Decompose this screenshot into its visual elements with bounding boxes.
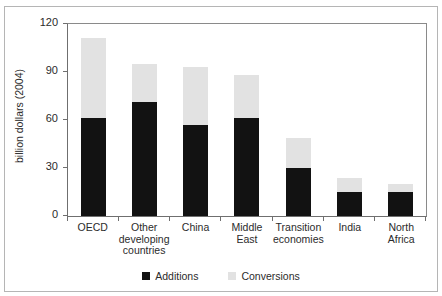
bar-segment-additions[interactable] xyxy=(234,118,259,216)
bar-segment-conversions[interactable] xyxy=(388,184,413,192)
legend-label: Conversions xyxy=(241,270,299,282)
x-axis-tick-mark xyxy=(425,216,426,221)
bar-segment-conversions[interactable] xyxy=(337,178,362,192)
y-axis-tick-label: 90 xyxy=(28,65,58,76)
bar-cell xyxy=(375,24,426,216)
x-axis-tick-mark xyxy=(220,216,221,221)
x-axis-label-transition-economies: Transitioneconomies xyxy=(273,222,324,257)
x-axis-label-line: East xyxy=(221,234,272,246)
x-axis-label-line: Transition xyxy=(273,222,324,234)
y-axis-tick-label: 120 xyxy=(28,17,58,28)
x-axis-label-line: India xyxy=(324,222,375,234)
x-axis-label-line: countries xyxy=(118,245,169,257)
stacked-bar[interactable] xyxy=(234,75,259,216)
bar-cell xyxy=(119,24,170,216)
bar-cell xyxy=(324,24,375,216)
x-axis-label-other-developing-countries: Otherdevelopingcountries xyxy=(118,222,169,257)
y-axis-title: billion dollars (2004) xyxy=(13,36,25,196)
x-axis-label-china: China xyxy=(170,222,221,257)
x-axis-label-line: North xyxy=(376,222,427,234)
y-axis-tick-label: 30 xyxy=(28,161,58,172)
x-axis-tick-mark xyxy=(272,216,273,221)
bar-segment-additions[interactable] xyxy=(337,192,362,216)
plot-area xyxy=(67,23,427,217)
bar-segment-additions[interactable] xyxy=(388,192,413,216)
x-axis-label-oecd: OECD xyxy=(67,222,118,257)
stacked-bar[interactable] xyxy=(132,64,157,216)
legend-swatch-icon xyxy=(142,272,150,280)
bar-cell xyxy=(68,24,119,216)
x-axis-tick-mark xyxy=(67,216,68,221)
x-axis-tick-mark xyxy=(169,216,170,221)
legend-label: Additions xyxy=(155,270,198,282)
bar-segment-additions[interactable] xyxy=(132,102,157,216)
legend-item[interactable]: Additions xyxy=(142,270,198,282)
stacked-bar[interactable] xyxy=(183,67,208,216)
x-axis-labels: OECDOtherdevelopingcountriesChinaMiddleE… xyxy=(67,222,427,257)
bar-group xyxy=(68,24,426,216)
cut-off-title xyxy=(0,0,442,2)
legend-item[interactable]: Conversions xyxy=(228,270,299,282)
x-axis-label-line: Africa xyxy=(376,234,427,246)
x-axis-label-north-africa: NorthAfrica xyxy=(376,222,427,257)
x-axis-label-middle-east: MiddleEast xyxy=(221,222,272,257)
bar-segment-conversions[interactable] xyxy=(234,75,259,118)
bar-segment-additions[interactable] xyxy=(183,125,208,216)
x-axis-tick-mark xyxy=(374,216,375,221)
bar-cell xyxy=(221,24,272,216)
y-axis-tick-label: 0 xyxy=(28,209,58,220)
x-axis-tick-mark xyxy=(118,216,119,221)
bar-segment-conversions[interactable] xyxy=(132,64,157,102)
bar-segment-additions[interactable] xyxy=(81,118,106,216)
stacked-bar[interactable] xyxy=(388,184,413,216)
chart-figure: billion dollars (2004) 0306090120 OECDOt… xyxy=(0,0,442,296)
stacked-bar[interactable] xyxy=(337,178,362,216)
stacked-bar[interactable] xyxy=(81,38,106,216)
bar-segment-conversions[interactable] xyxy=(81,38,106,118)
x-axis-label-line: economies xyxy=(273,234,324,246)
y-axis-tick-label: 60 xyxy=(28,113,58,124)
x-axis-label-india: India xyxy=(324,222,375,257)
x-axis-label-line: OECD xyxy=(67,222,118,234)
chart-legend: AdditionsConversions xyxy=(0,270,442,282)
legend-swatch-icon xyxy=(228,272,236,280)
bar-segment-conversions[interactable] xyxy=(183,67,208,125)
stacked-bar[interactable] xyxy=(286,138,311,216)
x-axis-label-line: Other xyxy=(118,222,169,234)
x-axis-label-line: Middle xyxy=(221,222,272,234)
bar-segment-conversions[interactable] xyxy=(286,138,311,168)
bar-segment-additions[interactable] xyxy=(286,168,311,216)
bar-cell xyxy=(170,24,221,216)
x-axis-label-line: China xyxy=(170,222,221,234)
bar-cell xyxy=(273,24,324,216)
x-axis-tick-mark xyxy=(323,216,324,221)
